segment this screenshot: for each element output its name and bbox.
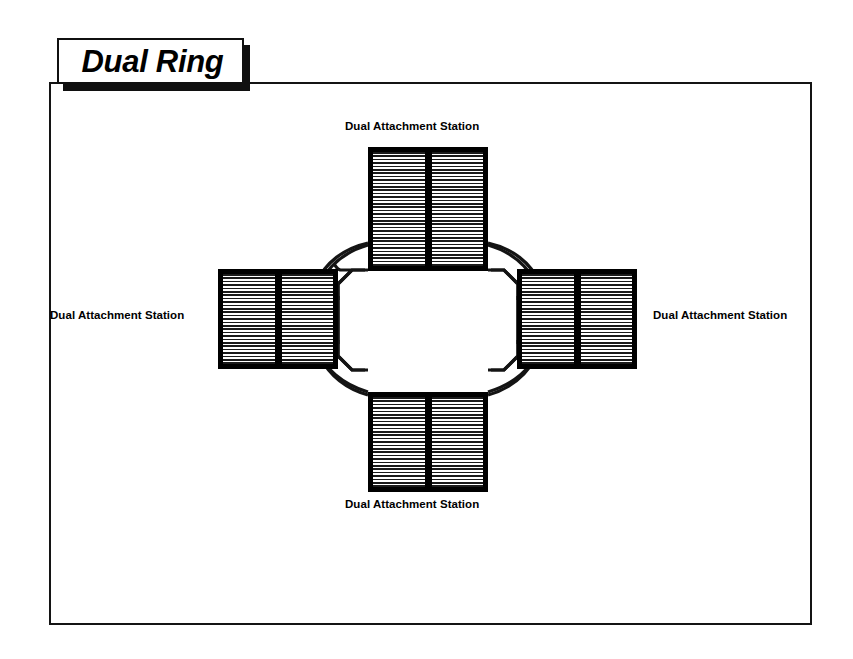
station-bottom-panel-a xyxy=(372,396,426,488)
station-left-panel-a xyxy=(222,273,276,365)
station-right-panel-a xyxy=(521,273,575,365)
station-left-label: Dual Attachment Station xyxy=(50,309,184,321)
station-right-panel-b xyxy=(580,273,634,365)
station-left[interactable] xyxy=(218,269,338,369)
station-top-panel-b xyxy=(431,151,485,267)
station-top-label: Dual Attachment Station xyxy=(345,120,479,132)
station-right-label: Dual Attachment Station xyxy=(653,309,787,321)
station-top[interactable] xyxy=(368,147,488,271)
station-top-panel-a xyxy=(372,151,426,267)
page-title: Dual Ring xyxy=(59,40,246,86)
station-bottom[interactable] xyxy=(368,392,488,492)
station-bottom-panel-b xyxy=(431,396,485,488)
station-bottom-label: Dual Attachment Station xyxy=(345,498,479,510)
diagram-canvas: Dual Ring Dual Attachment Station xyxy=(0,0,853,659)
station-left-panel-b xyxy=(281,273,335,365)
title-plate: Dual Ring xyxy=(57,38,244,84)
station-right[interactable] xyxy=(517,269,637,369)
